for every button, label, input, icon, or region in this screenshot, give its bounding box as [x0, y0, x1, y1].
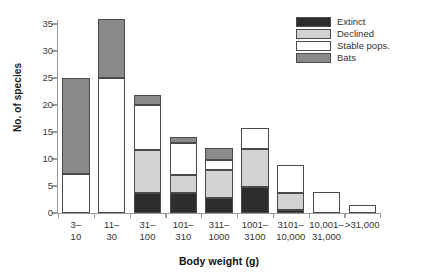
bar-stack [98, 0, 126, 213]
bar-stack [62, 0, 90, 213]
legend-swatch-stable-pops [296, 41, 331, 51]
bar-segment-stable-pops [170, 143, 198, 175]
bar-segment-stable-pops [205, 160, 233, 170]
bar-segment-extinct [241, 187, 269, 213]
legend-swatch-declined [296, 29, 331, 39]
legend-item-stable-pops: Stable pops. [296, 40, 390, 52]
bar-segment-declined [170, 175, 198, 193]
x-tick-7 [309, 213, 310, 218]
legend-label: Bats [337, 53, 356, 63]
legend-item-declined: Declined [296, 28, 390, 40]
bar-segment-bats [170, 137, 198, 142]
bar-segment-stable-pops [62, 174, 90, 213]
legend-item-bats: Bats [296, 52, 390, 64]
bar-segment-declined [205, 170, 233, 199]
legend-swatch-bats [296, 53, 331, 63]
bar-stack [241, 0, 269, 213]
legend-label: Extinct [337, 17, 366, 27]
bar-stack [205, 0, 233, 213]
legend-swatch-extinct [296, 17, 331, 27]
bar-segment-stable-pops [134, 105, 162, 150]
x-axis-label-3: 101– 310 [165, 219, 201, 242]
x-tick-2 [130, 213, 131, 218]
x-axis-label-1: 11– 30 [94, 219, 130, 242]
bar-segment-declined [277, 193, 305, 210]
x-axis-label-7: 10,001– 31,000 [309, 219, 345, 242]
x-axis-label-6: 3101– 10,000 [273, 219, 309, 242]
x-axis-label-0: 3– 10 [58, 219, 94, 242]
bar-segment-stable-pops [241, 128, 269, 150]
bar-segment-stable-pops [98, 78, 126, 213]
legend-item-extinct: Extinct [296, 16, 390, 28]
x-tick-end [380, 213, 381, 218]
legend-label: Declined [337, 29, 374, 39]
x-tick-1 [94, 213, 95, 218]
bar-segment-stable-pops [277, 165, 305, 193]
x-tick-0 [58, 213, 59, 218]
bar-stack [134, 0, 162, 213]
chart-legend: ExtinctDeclinedStable pops.Bats [296, 16, 390, 64]
bar-stack [170, 0, 198, 213]
x-tick-8 [344, 213, 345, 218]
bar-segment-declined [241, 149, 269, 186]
bar-segment-stable-pops [349, 205, 377, 213]
bar-segment-bats [205, 148, 233, 160]
x-axis-label-5: 1001– 3100 [237, 219, 273, 242]
bar-segment-extinct [134, 193, 162, 213]
bar-segment-extinct [170, 193, 198, 213]
bar-segment-declined [134, 150, 162, 193]
x-axis-label-4: 311– 1000 [201, 219, 237, 242]
x-tick-4 [201, 213, 202, 218]
x-axis-label-2: 31– 100 [130, 219, 166, 242]
legend-label: Stable pops. [337, 41, 390, 51]
bar-segment-bats [62, 78, 90, 174]
bar-segment-bats [134, 95, 162, 105]
x-tick-3 [165, 213, 166, 218]
bar-segment-extinct [205, 198, 233, 213]
bar-segment-extinct [277, 210, 305, 213]
x-tick-6 [273, 213, 274, 218]
x-axis-label-8: >31,000 [344, 219, 380, 231]
bar-segment-bats [98, 19, 126, 78]
x-tick-5 [237, 213, 238, 218]
bar-segment-stable-pops [313, 192, 341, 213]
species-body-weight-chart: 05101520253035 No. of species Body weigh… [0, 0, 434, 275]
